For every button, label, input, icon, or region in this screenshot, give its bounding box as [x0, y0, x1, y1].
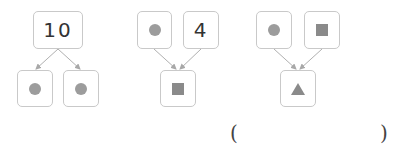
shape-box-circle — [17, 70, 53, 107]
shape-box-circle — [63, 70, 99, 107]
square-icon — [316, 24, 328, 36]
circle-icon — [29, 83, 41, 95]
number-box-10: 10 — [33, 11, 83, 49]
shape-box-triangle — [280, 70, 316, 107]
circle-icon — [75, 83, 87, 95]
answer-close-paren: ) — [380, 121, 388, 145]
shape-box-circle — [137, 11, 172, 49]
shape-box-square — [160, 70, 196, 107]
triangle-icon — [291, 83, 305, 95]
circle-icon — [268, 24, 280, 36]
shape-box-circle — [256, 11, 292, 49]
shape-box-square — [304, 11, 340, 49]
number-4: 4 — [194, 18, 209, 42]
number-box-4: 4 — [183, 11, 219, 49]
answer-blank[interactable] — [245, 124, 375, 146]
number-10: 10 — [43, 18, 72, 42]
circle-icon — [149, 24, 161, 36]
answer-open-paren: ( — [230, 121, 238, 145]
square-icon — [172, 83, 184, 95]
